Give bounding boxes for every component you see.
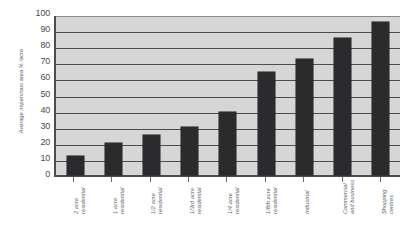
y-tick-label: 60 — [24, 73, 50, 82]
x-axis-label-line2: residential — [157, 158, 164, 214]
x-axis-label-line1: 1/3rd acre — [189, 188, 195, 214]
x-axis-label-line1: 1/2 acre — [150, 193, 156, 214]
x-label-slot: Shoppingcentres — [362, 186, 400, 244]
bar[interactable] — [372, 22, 389, 175]
bar-slot — [209, 16, 247, 175]
x-axis-label-line2: residential — [80, 158, 87, 214]
x-axis-label-line1: 2 acre — [73, 198, 79, 214]
y-tick-label: 0 — [24, 170, 50, 179]
y-tick-label: 30 — [24, 121, 50, 130]
y-tick-label: 90 — [24, 25, 50, 34]
x-axis-label: 1 acreresidential — [112, 158, 126, 214]
x-label-slot: 1/8th acreresidential — [246, 186, 284, 244]
x-axis-label-line1: Shopping — [381, 190, 387, 214]
x-axis-label-line1: 1/4 acre — [227, 193, 233, 214]
bar-slot — [247, 16, 285, 175]
x-axis-label: Shoppingcentres — [381, 158, 395, 214]
x-axis-label-line2: residential — [272, 158, 279, 214]
y-tick-label: 50 — [24, 89, 50, 98]
x-axis-label-line1: 1/8th acre — [265, 188, 271, 214]
y-tick-label: 10 — [24, 153, 50, 162]
x-axis-label: Industrial — [304, 158, 311, 214]
bar-slot — [56, 16, 94, 175]
x-axis-label-line2: and business — [349, 158, 356, 214]
bar-slot — [132, 16, 170, 175]
y-axis-tick-labels: 1009080706050403020100 — [24, 13, 50, 177]
x-label-slot: Industrial — [285, 186, 323, 244]
bar-slot — [171, 16, 209, 175]
bar[interactable] — [334, 38, 351, 175]
x-axis-label-line2: residential — [119, 158, 126, 214]
y-tick-label: 20 — [24, 137, 50, 146]
chart-title — [0, 0, 414, 2]
bar-series — [56, 16, 400, 175]
x-label-slot: 2 acreresidential — [54, 186, 92, 244]
y-tick-label: 70 — [24, 57, 50, 66]
x-label-slot: 1/2 acreresidential — [131, 186, 169, 244]
bar-slot — [362, 16, 400, 175]
x-label-slot: Commercialand business — [323, 186, 361, 244]
y-tick-label: 80 — [24, 41, 50, 50]
bar-slot — [285, 16, 323, 175]
y-tick-label: 40 — [24, 105, 50, 114]
bar-slot — [324, 16, 362, 175]
x-axis-label-line2: residential — [234, 158, 241, 214]
bar-slot — [94, 16, 132, 175]
x-axis-label-line2: residential — [196, 158, 203, 214]
x-axis-label: 1/8th acreresidential — [265, 158, 279, 214]
x-label-slot: 1 acreresidential — [92, 186, 130, 244]
x-axis-label: 1/3rd acreresidential — [189, 158, 203, 214]
bar-chart-figure: Average impervious area % /acre 10090807… — [0, 0, 414, 244]
x-axis-label-line1: Commercial — [342, 183, 348, 214]
x-axis-label: 1/2 acreresidential — [150, 158, 164, 214]
y-tick-label: 100 — [24, 9, 50, 18]
x-axis-category-labels: 2 acreresidential1 acreresidential1/2 ac… — [54, 186, 400, 244]
x-axis-label-line1: Industrial — [304, 190, 310, 214]
x-axis-label: Commercialand business — [342, 158, 356, 214]
x-axis-label: 1/4 acreresidential — [227, 158, 241, 214]
plot-area — [54, 16, 400, 177]
x-label-slot: 1/3rd acreresidential — [169, 186, 207, 244]
x-label-slot: 1/4 acreresidential — [208, 186, 246, 244]
x-axis-label-line2: centres — [388, 158, 395, 214]
x-axis-label-line1: 1 acre — [112, 198, 118, 214]
x-axis-label: 2 acreresidential — [73, 158, 87, 214]
